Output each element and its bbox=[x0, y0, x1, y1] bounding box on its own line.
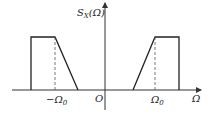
y-axis-label: SX(Ω) bbox=[77, 7, 105, 20]
pos-omega0-label: Ω0 bbox=[150, 94, 164, 107]
origin-label: O bbox=[95, 93, 103, 104]
spectrum-diagram: SX(Ω) −Ω0 O Ω0 Ω bbox=[0, 0, 211, 125]
left-spectrum-shape bbox=[31, 37, 78, 90]
neg-omega0-label: −Ω0 bbox=[46, 94, 68, 107]
right-spectrum-shape bbox=[133, 37, 179, 90]
x-axis-label: Ω bbox=[191, 93, 200, 104]
